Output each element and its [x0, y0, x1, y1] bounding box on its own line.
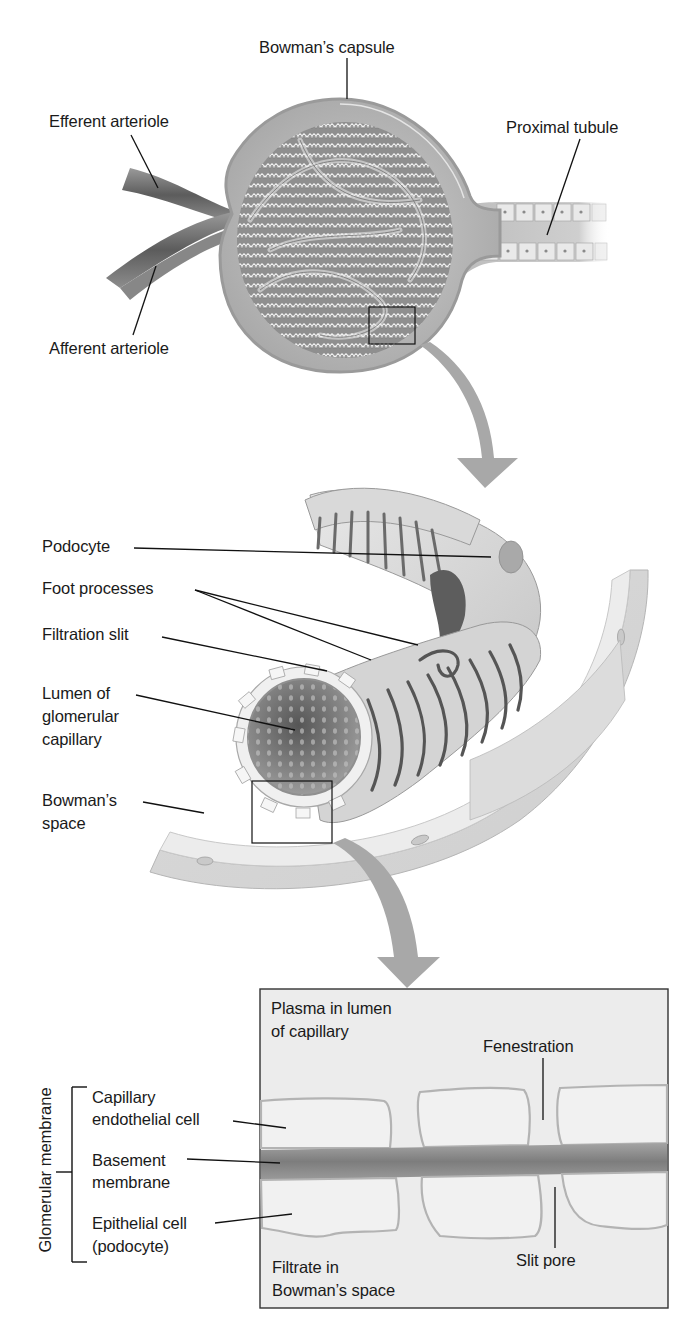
label-efferent-arteriole: Efferent arteriole [49, 112, 169, 131]
label-foot-processes: Foot processes [42, 579, 153, 598]
label-plasma-line1: Plasma in lumen [271, 999, 391, 1018]
label-slit-pore: Slit pore [516, 1251, 576, 1270]
label-capillary-line1: Capillary [92, 1088, 155, 1107]
podocyte-capillary [150, 488, 648, 889]
figure: Bowman’s capsule Efferent arteriole Prox… [0, 0, 700, 1331]
label-fenestration: Fenestration [483, 1037, 574, 1056]
label-basement-line1: Basement [92, 1151, 166, 1170]
label-bowmans-capsule: Bowman’s capsule [259, 38, 395, 57]
label-capillary-line2: endothelial cell [92, 1110, 200, 1129]
podocyte-nucleus [499, 541, 523, 573]
glomerular-membrane-bracket [56, 1087, 87, 1262]
label-filtrate-line2: Bowman’s space [272, 1281, 395, 1300]
label-plasma-line2: of capillary [271, 1022, 349, 1041]
afferent-arteriole-vessel [106, 212, 232, 288]
label-proximal-tubule: Proximal tubule [506, 118, 618, 137]
label-lumen-line2: glomerular [42, 707, 119, 726]
label-podocyte: Podocyte [42, 537, 110, 556]
label-bowmans-space-line1: Bowman’s [42, 791, 117, 810]
label-glomerular-membrane: Glomerular membrane [36, 1093, 55, 1253]
label-afferent-arteriole: Afferent arteriole [49, 339, 169, 358]
label-bowmans-space-line2: space [42, 814, 86, 833]
label-filtration-slit: Filtration slit [42, 625, 129, 644]
label-epithelial-line1: Epithelial cell [92, 1214, 187, 1233]
zoom-arrow-1 [420, 342, 518, 488]
label-lumen-line3: capillary [42, 730, 102, 749]
label-basement-line2: membrane [92, 1173, 170, 1192]
label-epithelial-line2: (podocyte) [92, 1237, 169, 1256]
illustration [0, 0, 700, 1331]
efferent-arteriole-vessel [122, 168, 232, 222]
label-lumen-line1: Lumen of [42, 684, 110, 703]
renal-corpuscle [106, 99, 610, 372]
label-filtrate-line1: Filtrate in [272, 1258, 339, 1277]
